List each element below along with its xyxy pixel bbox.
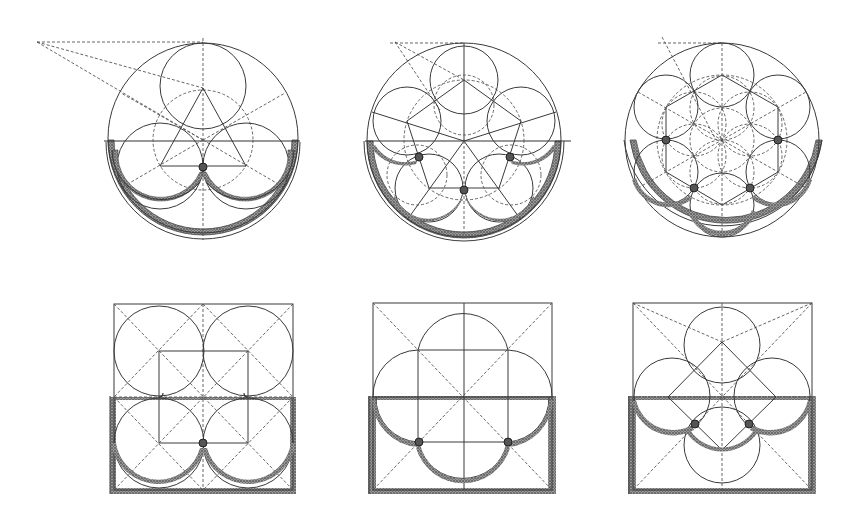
quatrefoil-square-b-diagram bbox=[368, 303, 556, 494]
trefoil-circle-diagram bbox=[37, 38, 300, 240]
quatrefoil-square-a-diagram bbox=[110, 304, 296, 494]
sexfoil-circle-diagram bbox=[624, 37, 822, 237]
tracery-construction-figure bbox=[0, 0, 854, 517]
quatrefoil-square-c-diagram bbox=[628, 303, 816, 494]
cinquefoil-circle-diagram bbox=[364, 42, 571, 241]
